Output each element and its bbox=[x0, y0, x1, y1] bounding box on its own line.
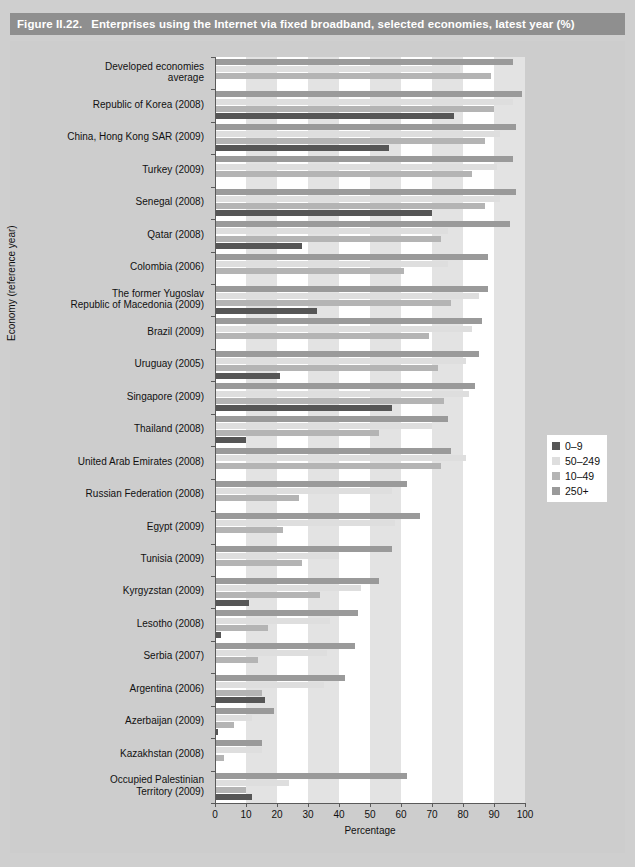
category-label: Turkey (2009) bbox=[10, 164, 210, 176]
category-label-line: Republic of Macedonia (2009) bbox=[10, 299, 204, 311]
bar bbox=[215, 91, 522, 97]
y-axis-tick bbox=[211, 284, 215, 285]
bar bbox=[215, 610, 358, 616]
y-axis-tick bbox=[211, 349, 215, 350]
bar bbox=[215, 145, 389, 151]
category-label-line: Territory (2009) bbox=[10, 786, 204, 798]
y-axis-tick bbox=[211, 608, 215, 609]
y-axis-tick bbox=[211, 738, 215, 739]
category-label-line: Argentina (2006) bbox=[10, 683, 204, 695]
bar bbox=[215, 391, 469, 397]
category-label-line: Russian Federation (2008) bbox=[10, 488, 204, 500]
legend-item[interactable]: 50–249 bbox=[552, 455, 600, 467]
bar bbox=[215, 513, 420, 519]
category-label: Singapore (2009) bbox=[10, 391, 210, 403]
legend-label: 50–249 bbox=[565, 455, 600, 467]
bar bbox=[215, 203, 485, 209]
bar bbox=[215, 585, 361, 591]
grid-band bbox=[494, 57, 525, 803]
bar bbox=[215, 73, 491, 79]
category-label: Developed economiesaverage bbox=[10, 61, 210, 84]
bar bbox=[215, 546, 392, 552]
bar bbox=[215, 715, 252, 721]
y-axis-tick bbox=[211, 219, 215, 220]
category-label-line: Tunisia (2009) bbox=[10, 553, 204, 565]
bar bbox=[215, 131, 500, 137]
x-axis-tick-label: 80 bbox=[457, 809, 468, 820]
category-label: Occupied PalestinianTerritory (2009) bbox=[10, 774, 210, 797]
bar bbox=[215, 697, 265, 703]
category-label: Colombia (2006) bbox=[10, 261, 210, 273]
bar bbox=[215, 481, 407, 487]
y-axis-tick bbox=[211, 122, 215, 123]
y-axis-tick bbox=[211, 316, 215, 317]
y-axis-tick bbox=[211, 414, 215, 415]
y-axis-tick bbox=[211, 771, 215, 772]
legend-item[interactable]: 0–9 bbox=[552, 440, 600, 452]
figure-number: Figure II.22. bbox=[17, 18, 82, 30]
bar bbox=[215, 455, 466, 461]
bar bbox=[215, 740, 262, 746]
bar bbox=[215, 286, 488, 292]
bar bbox=[215, 625, 268, 631]
bar bbox=[215, 690, 262, 696]
y-axis-tick bbox=[211, 673, 215, 674]
category-label-line: Kyrgyzstan (2009) bbox=[10, 585, 204, 597]
bar bbox=[215, 254, 488, 260]
chart-panel: 0102030405060708090100 Developed economi… bbox=[10, 41, 625, 853]
y-axis-line bbox=[215, 57, 216, 803]
bar bbox=[215, 527, 283, 533]
bar bbox=[215, 358, 466, 364]
bar bbox=[215, 650, 327, 656]
y-axis-tick bbox=[211, 511, 215, 512]
y-axis-tick bbox=[211, 576, 215, 577]
y-axis-tick bbox=[211, 252, 215, 253]
category-label: Argentina (2006) bbox=[10, 683, 210, 695]
category-label-line: Azerbaijan (2009) bbox=[10, 715, 204, 727]
x-axis-tick-label: 100 bbox=[517, 809, 534, 820]
x-axis-tick-label: 50 bbox=[364, 809, 375, 820]
bar bbox=[215, 300, 451, 306]
category-label: Lesotho (2008) bbox=[10, 618, 210, 630]
bar bbox=[215, 124, 516, 130]
bar bbox=[215, 138, 485, 144]
category-label: Brazil (2009) bbox=[10, 326, 210, 338]
x-axis-tick-label: 90 bbox=[488, 809, 499, 820]
bar bbox=[215, 228, 448, 234]
category-label-line: Serbia (2007) bbox=[10, 650, 204, 662]
x-axis-tick-label: 20 bbox=[271, 809, 282, 820]
x-axis-title: Percentage bbox=[215, 825, 525, 836]
bar bbox=[215, 773, 407, 779]
bar bbox=[215, 113, 454, 119]
bar bbox=[215, 156, 513, 162]
bar bbox=[215, 618, 330, 624]
category-label-line: Colombia (2006) bbox=[10, 261, 204, 273]
figure-title: Enterprises using the Internet via fixed… bbox=[91, 18, 575, 30]
x-axis-tick bbox=[308, 803, 309, 807]
legend-item[interactable]: 250+ bbox=[552, 485, 600, 497]
bar bbox=[215, 560, 302, 566]
legend-item[interactable]: 10–49 bbox=[552, 470, 600, 482]
category-label: Kazakhstan (2008) bbox=[10, 748, 210, 760]
bar bbox=[215, 308, 317, 314]
category-label: Serbia (2007) bbox=[10, 650, 210, 662]
category-label-line: Qatar (2008) bbox=[10, 229, 204, 241]
x-axis-tick bbox=[277, 803, 278, 807]
bar bbox=[215, 437, 246, 443]
bar bbox=[215, 780, 289, 786]
legend-swatch-icon bbox=[552, 442, 560, 450]
bar bbox=[215, 326, 472, 332]
x-axis-tick bbox=[215, 803, 216, 807]
category-label-line: average bbox=[10, 72, 204, 84]
bar bbox=[215, 59, 513, 65]
bar bbox=[215, 755, 224, 761]
bar bbox=[215, 243, 302, 249]
bar bbox=[215, 747, 262, 753]
y-axis-tick bbox=[211, 706, 215, 707]
bar bbox=[215, 553, 339, 559]
legend-label: 0–9 bbox=[565, 440, 583, 452]
x-axis-tick-label: 30 bbox=[302, 809, 313, 820]
category-label: Qatar (2008) bbox=[10, 229, 210, 241]
bar bbox=[215, 423, 432, 429]
category-label: Republic of Korea (2008) bbox=[10, 99, 210, 111]
